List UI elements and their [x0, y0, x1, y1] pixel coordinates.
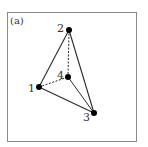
- edge-2-3: [69, 30, 94, 113]
- panel-label: (a): [10, 15, 24, 26]
- vertex-label-2: 2: [57, 22, 64, 35]
- edge-1-2: [39, 30, 69, 87]
- vertex-3: [91, 110, 97, 116]
- vertex-2: [66, 27, 72, 33]
- edge-2-4-hidden: [68, 30, 69, 77]
- vertex-label-3: 3: [83, 111, 90, 124]
- vertex-label-1: 1: [28, 82, 35, 95]
- edge-4-3: [68, 77, 94, 113]
- tetrahedron-diagram: (a) 1 2 3 4: [0, 0, 148, 147]
- edge-1-3: [39, 87, 94, 113]
- vertex-label-4: 4: [57, 69, 64, 82]
- vertex-1: [36, 84, 42, 90]
- vertex-4: [65, 74, 71, 80]
